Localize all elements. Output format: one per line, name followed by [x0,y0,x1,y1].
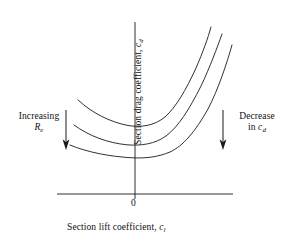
x-axis-subscript: l [163,226,165,234]
decrease-cd-arrow-icon [220,110,227,150]
decrease-cd-prefix: in [248,122,258,132]
decrease-cd-line2: in cd [229,122,285,134]
drag-polar-curve-3 [70,45,232,158]
increasing-re-line1: Increasing [13,111,65,122]
cd-subscript: d [262,126,266,134]
x-axis-label-text: Section lift coefficient, [67,222,159,232]
decrease-cd-annotation: Decrease in cd [229,111,285,134]
drag-polar-curve-2 [74,34,222,145]
decrease-cd-line1: Decrease [229,111,285,122]
y-axis-symbol: c [133,43,143,47]
y-axis-label: Section drag coefficient, cd [133,39,145,145]
y-axis-subscript: d [137,39,145,43]
increasing-re-annotation: Increasing Re [13,111,65,134]
origin-label: 0 [131,198,136,209]
y-axis-label-text: Section drag coefficient, [133,47,143,145]
reynolds-subscript: e [40,126,43,134]
drag-polar-figure: Section drag coefficient, cd Section lif… [0,0,287,241]
increasing-re-line2: Re [13,122,65,134]
x-axis-label: Section lift coefficient, cl [67,222,166,234]
